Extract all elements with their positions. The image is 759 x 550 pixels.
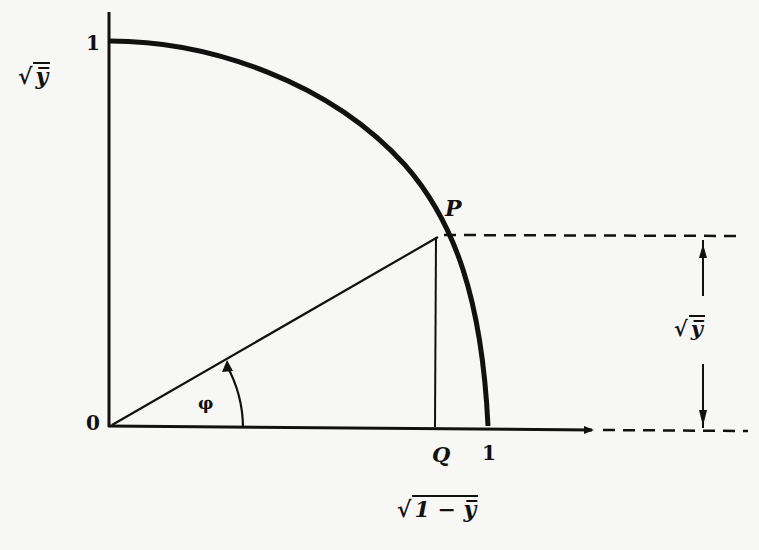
diagram-canvas bbox=[0, 0, 759, 550]
origin-label: 0 bbox=[86, 413, 100, 433]
x-axis-tick-one: 1 bbox=[482, 443, 496, 463]
radius-line-op bbox=[112, 237, 438, 425]
point-p-label: P bbox=[445, 197, 462, 219]
angle-phi-label: φ bbox=[198, 395, 213, 412]
quarter-circle-arc bbox=[110, 41, 488, 426]
dimension-arrowhead-down bbox=[699, 410, 707, 426]
projection-line-pq bbox=[435, 237, 436, 427]
y-axis-label-radical: √ bbox=[18, 65, 32, 87]
dimension-arrowhead-up bbox=[699, 244, 707, 258]
dimension-label: √ y̅ bbox=[674, 315, 705, 340]
point-q-label: Q bbox=[432, 444, 450, 465]
x-axis bbox=[108, 426, 592, 430]
angle-phi-arc bbox=[227, 366, 243, 428]
x-axis-label: √ 1 − y̅ bbox=[397, 495, 478, 521]
dimension-label-radical: √ bbox=[674, 318, 688, 339]
y-axis-label-radicand: y̅ bbox=[33, 62, 50, 87]
x-axis-label-radicand: 1 − y̅ bbox=[412, 495, 478, 520]
y-axis-tick-one: 1 bbox=[86, 33, 100, 53]
x-axis-dashed-extension bbox=[603, 430, 748, 431]
dimension-label-radicand: y̅ bbox=[689, 315, 705, 339]
x-axis-label-radical: √ bbox=[397, 498, 411, 520]
horizontal-dashed-from-p bbox=[444, 235, 743, 236]
y-axis-label: √ y̅ bbox=[18, 62, 50, 88]
